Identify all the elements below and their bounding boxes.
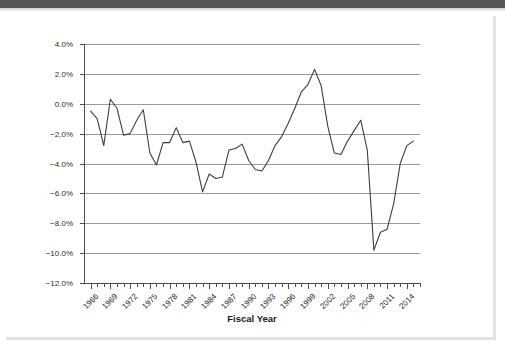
y-tick-label: −4.0% (50, 159, 73, 168)
x-tick-mark (104, 283, 105, 287)
x-tick-mark (150, 283, 151, 289)
x-tick-mark (328, 283, 329, 289)
x-tick-label: 1981 (180, 292, 199, 311)
x-tick-mark (288, 283, 289, 289)
x-tick-label: 1999 (298, 292, 317, 311)
line-chart: Budget Surplus/Deficit as Percentage of … (6, 16, 493, 337)
x-tick-label: 2011 (378, 292, 397, 311)
x-tick-mark (400, 283, 401, 287)
y-tick-label: 2.0% (55, 69, 73, 78)
x-tick-mark (156, 283, 157, 287)
series-line-deficit (91, 69, 414, 250)
x-tick-mark (334, 283, 335, 287)
x-tick-mark (216, 283, 217, 287)
x-tick-mark (236, 283, 237, 287)
x-tick-label: 1972 (121, 292, 140, 311)
x-tick-mark (209, 283, 210, 289)
x-tick-mark (170, 283, 171, 289)
x-tick-mark (315, 283, 316, 287)
x-tick-mark (117, 283, 118, 287)
y-tick-label: −6.0% (50, 189, 73, 198)
x-tick-label: 1990 (239, 292, 258, 311)
x-tick-label: 1993 (259, 292, 278, 311)
x-tick-mark (394, 283, 395, 287)
x-tick-mark (91, 283, 92, 289)
x-tick-mark (222, 283, 223, 287)
x-tick-mark (380, 283, 381, 287)
x-tick-label: 2014 (397, 292, 416, 311)
x-tick-mark (229, 283, 230, 289)
y-tick-label: −12.0% (46, 279, 73, 288)
x-tick-mark (275, 283, 276, 287)
x-tick-mark (321, 283, 322, 287)
x-tick-mark (268, 283, 269, 289)
plot-area: 4.0%2.0%0.0%−2.0%−4.0%−6.0%−8.0%−10.0%−1… (84, 44, 420, 283)
y-tick-label: −10.0% (46, 249, 73, 258)
document-page: Budget Surplus/Deficit as Percentage of … (0, 11, 505, 357)
x-tick-mark (196, 283, 197, 287)
x-tick-mark (282, 283, 283, 287)
x-tick-mark (367, 283, 368, 289)
x-tick-mark (407, 283, 408, 289)
x-tick-mark (176, 283, 177, 287)
x-tick-mark (130, 283, 131, 289)
y-tick-label: 0.0% (55, 99, 73, 108)
series-svg (84, 44, 420, 283)
x-tick-mark (295, 283, 296, 287)
x-tick-label: 1984 (200, 292, 219, 311)
x-tick-mark (143, 283, 144, 287)
x-axis-title: Fiscal Year (84, 313, 420, 324)
x-tick-label: 1969 (101, 292, 120, 311)
x-tick-label: 1987 (219, 292, 238, 311)
x-tick-mark (137, 283, 138, 287)
x-tick-mark (413, 283, 414, 287)
x-tick-label: 1966 (81, 292, 100, 311)
x-tick-mark (354, 283, 355, 287)
x-tick-label: 1996 (279, 292, 298, 311)
x-tick-mark (163, 283, 164, 287)
y-tick-mark: −12.0% (80, 283, 85, 284)
x-tick-mark (301, 283, 302, 287)
x-tick-mark (124, 283, 125, 287)
x-tick-mark (308, 283, 309, 289)
x-tick-label: 1975 (140, 292, 159, 311)
x-tick-label: 2008 (358, 292, 377, 311)
x-tick-label: 2002 (318, 292, 337, 311)
x-tick-label: 2005 (338, 292, 357, 311)
x-tick-mark (374, 283, 375, 287)
x-tick-label: 1978 (160, 292, 179, 311)
x-tick-mark (183, 283, 184, 287)
y-tick-label: 4.0% (55, 40, 73, 49)
x-tick-mark (249, 283, 250, 289)
x-tick-mark (341, 283, 342, 287)
x-tick-mark (420, 283, 421, 287)
x-tick-mark (387, 283, 388, 289)
x-tick-mark (110, 283, 111, 289)
y-tick-label: −8.0% (50, 219, 73, 228)
x-axis-line (84, 283, 420, 284)
x-tick-mark (348, 283, 349, 289)
x-tick-mark (361, 283, 362, 287)
x-tick-mark (203, 283, 204, 287)
chart-canvas-frame: Budget Surplus/Deficit as Percentage of … (6, 16, 496, 340)
x-tick-mark (255, 283, 256, 287)
y-tick-label: −2.0% (50, 129, 73, 138)
x-tick-mark (97, 283, 98, 287)
x-tick-mark (189, 283, 190, 289)
x-tick-mark (262, 283, 263, 287)
x-tick-mark (242, 283, 243, 287)
window-title-bar (0, 0, 505, 8)
